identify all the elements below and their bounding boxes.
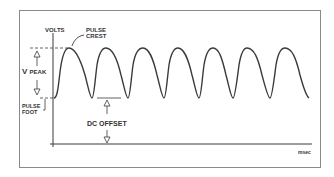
arrow-up-icon [34, 51, 40, 57]
v-peak-main: V [22, 67, 27, 76]
v-peak-sub: PEAK [30, 69, 47, 75]
foot-bracket [43, 99, 45, 110]
pulse-foot-label-line2: FOOT [22, 109, 40, 115]
arrow-down-icon [34, 89, 40, 95]
x-axis-label: msec [298, 150, 311, 155]
dc-offset-label: DC OFFSET [87, 120, 127, 127]
pulse-foot-label: PULSE FOOT [22, 103, 40, 115]
arrow-up-icon [104, 100, 110, 106]
crest-leader-line [72, 35, 84, 46]
y-axis-label: VOLTS [45, 27, 65, 33]
arrow-down-icon [104, 137, 110, 143]
pulse-waveform [54, 48, 309, 98]
pulse-crest-label: PULSE CREST [86, 27, 106, 39]
pulse-crest-label-line2: CREST [86, 33, 106, 39]
v-peak-label: V PEAK [22, 68, 46, 76]
